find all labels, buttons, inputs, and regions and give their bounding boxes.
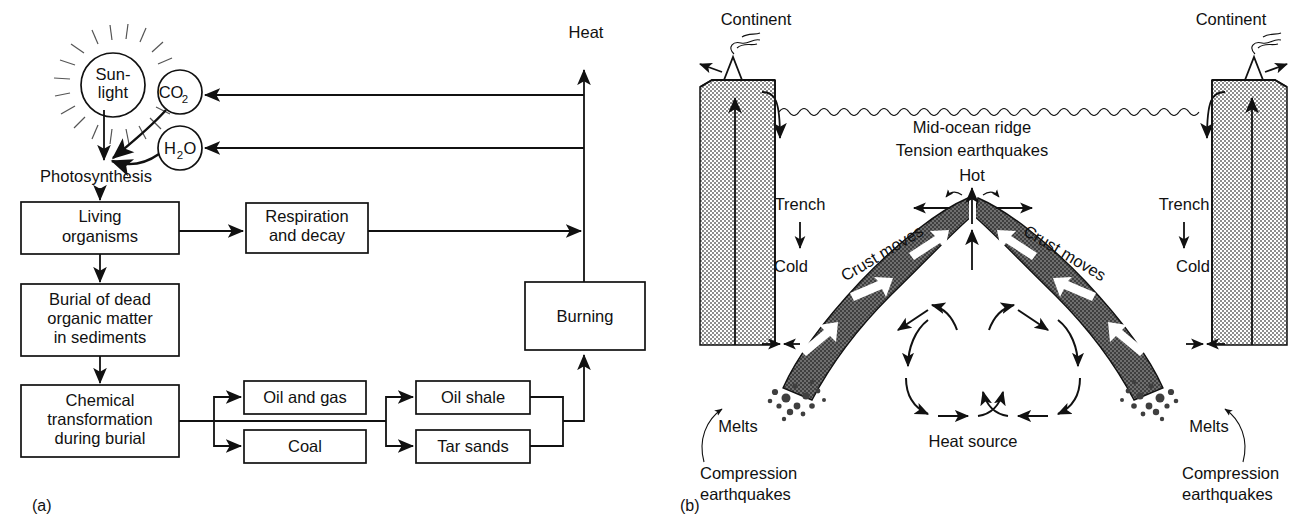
mid-ocean-ridge-label: Mid-ocean ridge [913,118,1031,136]
respiration-line2: and decay [269,226,346,244]
oil-shale-label: Oil shale [441,388,505,406]
figure-root: Sun- light CO 2 H 2 O Photosynthesis Liv… [0,0,1309,532]
panel-b-label: (b) [680,497,700,514]
cold-label-right: Cold [1176,257,1210,275]
sun-label-line1: Sun- [96,65,131,83]
compression-label-right-line2: earthquakes [1182,485,1273,503]
burial-line1: Burial of dead [49,290,151,308]
burial-line3: in sediments [54,328,147,346]
co2-label: CO [159,83,184,101]
tar-sands-label: Tar sands [437,437,509,455]
living-organisms-line1: Living [78,207,121,225]
continent-label-left: Continent [721,10,792,28]
photosynthesis-label: Photosynthesis [40,167,152,185]
compression-label-left-line2: earthquakes [700,485,791,503]
oil-and-gas-label: Oil and gas [263,388,346,406]
tension-earthquakes-label: Tension earthquakes [896,141,1048,159]
melts-label-right: Melts [1189,417,1228,435]
h2o-label-tail: O [184,139,197,157]
hot-label: Hot [959,166,985,184]
respiration-line1: Respiration [265,207,348,225]
continent-label-right: Continent [1196,10,1267,28]
continent-block-left [700,80,775,345]
trench-label-right: Trench [1159,195,1210,213]
coal-label: Coal [288,437,322,455]
panel-a-label: (a) [32,497,52,514]
co2-subscript: 2 [182,93,188,105]
burning-label: Burning [557,307,614,325]
living-organisms-line2: organisms [62,227,138,245]
compression-label-left-line1: Compression [700,464,797,482]
chemical-line3: during burial [55,429,146,447]
trench-label-left: Trench [775,195,826,213]
h2o-subscript: 2 [177,149,183,161]
heat-source-label: Heat source [929,432,1018,450]
heat-label: Heat [569,23,604,41]
sun-label-line2: light [98,83,129,101]
cold-label-left: Cold [774,257,808,275]
melts-label-left: Melts [718,417,757,435]
chemical-line1: Chemical [66,391,135,409]
h2o-label: H [164,139,176,157]
continent-block-right [1212,80,1287,345]
compression-label-right-line1: Compression [1182,464,1279,482]
chemical-line2: transformation [47,410,152,428]
burial-line2: organic matter [47,309,153,327]
